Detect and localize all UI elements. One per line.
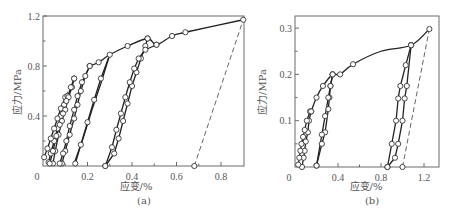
panel-b: 应力/MPa 应变/% (b) 00.40.81.20.10.20.3 — [256, 16, 439, 206]
data-point — [154, 42, 159, 47]
y-tick-label: 0.2 — [280, 69, 293, 80]
data-point — [114, 127, 119, 132]
data-point — [121, 118, 126, 123]
data-point — [314, 95, 319, 100]
data-point — [183, 30, 188, 35]
data-point — [398, 83, 403, 88]
data-point — [45, 146, 50, 151]
data-point — [409, 43, 414, 48]
data-point — [78, 142, 83, 147]
x-tick-label: 0.2 — [81, 171, 94, 182]
data-point — [320, 83, 325, 88]
data-point — [392, 155, 397, 160]
y-tick-label: 1.2 — [28, 11, 41, 22]
data-point — [125, 101, 130, 106]
data-point — [125, 43, 130, 48]
data-point — [73, 161, 78, 166]
data-point — [85, 120, 90, 125]
data-point — [75, 102, 80, 107]
data-point — [42, 155, 47, 160]
data-point — [350, 62, 355, 67]
data-point — [396, 141, 401, 146]
data-point — [60, 111, 65, 116]
data-point — [64, 98, 69, 103]
data-point — [54, 133, 59, 138]
data-point — [112, 151, 117, 156]
data-point — [92, 97, 97, 102]
panel-a-ylabel: 应力/MPa — [11, 69, 23, 115]
data-point — [389, 141, 394, 146]
data-point — [83, 73, 88, 78]
panel-b-label: (b) — [365, 195, 379, 206]
data-point — [87, 63, 92, 68]
data-point — [118, 111, 123, 116]
data-point — [68, 85, 73, 90]
data-point — [72, 76, 77, 81]
data-point — [338, 72, 343, 77]
data-point — [299, 141, 304, 146]
data-point — [79, 80, 84, 85]
panel-a-label: (a) — [137, 195, 151, 206]
data-point — [297, 155, 302, 160]
data-point — [75, 93, 80, 98]
x-tick-label: 0 — [35, 171, 40, 182]
data-point — [78, 88, 83, 93]
data-point — [427, 26, 432, 31]
data-point — [319, 132, 324, 137]
data-point — [143, 47, 148, 52]
data-point — [296, 162, 301, 167]
data-point — [107, 52, 112, 57]
data-point — [132, 66, 137, 71]
data-point — [98, 76, 103, 81]
data-point — [96, 60, 101, 65]
series-line-envelope — [90, 20, 244, 66]
y-tick-label: 0.4 — [28, 111, 41, 122]
x-tick-label: 1.2 — [418, 172, 431, 183]
data-point — [52, 126, 57, 131]
x-tick-label: 0.8 — [215, 171, 228, 182]
data-point — [241, 17, 246, 22]
data-point — [123, 95, 128, 100]
data-point — [326, 107, 331, 112]
data-point — [57, 161, 62, 166]
data-point — [403, 63, 408, 68]
data-point — [402, 96, 407, 101]
data-point — [400, 164, 405, 169]
data-point — [396, 96, 401, 101]
y-tick-label: 0.1 — [280, 115, 293, 126]
data-point — [50, 148, 55, 153]
data-point — [298, 148, 303, 153]
data-point — [300, 134, 305, 139]
plot-frame — [43, 16, 244, 166]
data-point — [145, 36, 150, 41]
data-point — [328, 83, 333, 88]
data-point — [400, 118, 405, 123]
y-tick-label: 0.8 — [28, 61, 41, 72]
data-point — [136, 56, 141, 61]
data-point — [116, 136, 121, 141]
x-tick-label: 0.4 — [332, 172, 345, 183]
data-point — [304, 118, 309, 123]
panel-a: 应力/MPa 应变/% (a) 00.20.40.60.80.40.81.2 — [11, 11, 246, 207]
panel-b-ylabel: 应力/MPa — [256, 69, 268, 115]
data-point — [330, 72, 335, 77]
x-tick-label: 0.8 — [375, 172, 388, 183]
data-point — [393, 118, 398, 123]
data-point — [72, 116, 77, 121]
data-point — [192, 163, 197, 168]
x-tick-label: 0.4 — [126, 171, 139, 182]
data-point — [57, 122, 62, 127]
data-point — [169, 33, 174, 38]
data-point — [323, 113, 328, 118]
data-point — [72, 107, 77, 112]
data-point — [109, 145, 114, 150]
data-point — [385, 164, 390, 169]
series-line-dashed-secant — [194, 20, 243, 166]
data-point — [404, 83, 409, 88]
x-tick-label: 0.6 — [170, 171, 183, 182]
data-point — [48, 136, 53, 141]
y-tick-label: 0.3 — [280, 23, 293, 34]
data-point — [127, 80, 132, 85]
data-point — [47, 161, 52, 166]
data-point — [64, 138, 69, 143]
